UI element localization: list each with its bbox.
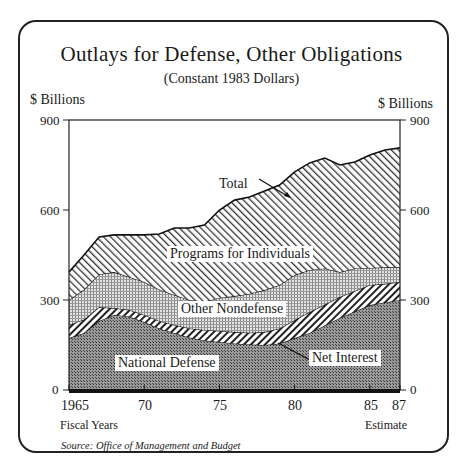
total-label: Total	[216, 176, 251, 192]
x-tick-1965: 1965	[61, 398, 89, 414]
y-tick-right-900: 900	[410, 113, 430, 129]
x-tick-1987: 87	[392, 398, 406, 414]
y-tick-left-300: 300	[40, 293, 60, 309]
x-tick-1970: 70	[138, 398, 152, 414]
y-tick-left-600: 600	[40, 203, 60, 219]
y-tick-right-0: 0	[410, 382, 417, 398]
x-tick-1985: 85	[364, 398, 378, 414]
estimate-label: Estimate	[365, 418, 407, 433]
y-tick-left-0: 0	[52, 382, 59, 398]
x-tick-1975: 75	[213, 398, 227, 414]
y-tick-right-600: 600	[410, 203, 430, 219]
national-defense-label: National Defense	[115, 355, 219, 371]
programs-label: Programs for Individuals	[167, 246, 313, 262]
net-interest-label: Net Interest	[309, 350, 381, 366]
y-tick-left-900: 900	[40, 113, 60, 129]
x-axis-label: Fiscal Years	[60, 418, 118, 433]
source-note: Source: Office of Management and Budget	[61, 440, 241, 451]
x-axis-baseline	[69, 389, 400, 393]
other-nondefense-label: Other Nondefense	[178, 301, 286, 317]
x-tick-1980: 80	[288, 398, 302, 414]
y-tick-right-300: 300	[410, 293, 430, 309]
